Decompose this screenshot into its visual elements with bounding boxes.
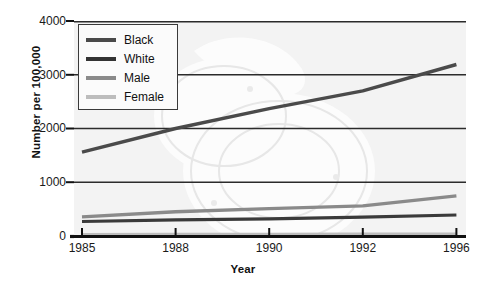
y-tick-label-2000: 2000 <box>8 121 66 135</box>
x-tick-label-1996: 1996 <box>443 241 470 255</box>
x-axis-title: Year <box>0 263 486 275</box>
legend-label-white: White <box>124 53 155 65</box>
x-tick-label-1985: 1985 <box>69 241 96 255</box>
y-tick-label-4000: 4000 <box>8 14 66 28</box>
y-tick-label-1000: 1000 <box>8 175 66 189</box>
legend-item-female: Female <box>79 87 177 106</box>
y-tick-label-0: 0 <box>8 229 66 243</box>
legend-label-male: Male <box>124 72 150 84</box>
x-tick-label-1990: 1990 <box>256 241 283 255</box>
x-tick-label-1992: 1992 <box>349 241 376 255</box>
series-line-male <box>82 196 456 217</box>
legend-swatch-white <box>86 57 116 61</box>
legend-item-white: White <box>79 49 177 68</box>
series-line-white <box>82 215 456 222</box>
legend-label-black: Black <box>124 34 153 46</box>
chart-legend: Black White Male Female <box>78 24 178 110</box>
series-line-female <box>82 234 456 235</box>
legend-item-male: Male <box>79 68 177 87</box>
x-tick-label-1988: 1988 <box>162 241 189 255</box>
legend-item-black: Black <box>79 30 177 49</box>
y-axis-tick-labels: 0 1000 2000 3000 4000 <box>0 0 66 285</box>
legend-swatch-male <box>86 76 116 80</box>
legend-label-female: Female <box>124 91 164 103</box>
chart-figure: Number per 100,000 0 1000 2000 3000 4000 <box>0 0 486 285</box>
y-tick-label-3000: 3000 <box>8 68 66 82</box>
legend-swatch-black <box>86 38 116 42</box>
legend-swatch-female <box>86 95 116 99</box>
